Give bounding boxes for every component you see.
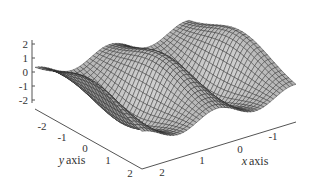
z-tick: 1 bbox=[23, 52, 29, 64]
y-tick-labels: -2 -1 0 1 2 yaxis bbox=[37, 120, 132, 179]
y-tick: -1 bbox=[57, 131, 66, 143]
z-tick: -1 bbox=[19, 80, 28, 92]
z-tick: 2 bbox=[23, 38, 29, 50]
surface-mesh bbox=[35, 20, 296, 135]
y-tick: -2 bbox=[37, 120, 46, 132]
x-tick: -1 bbox=[268, 130, 277, 142]
x-tick: 2 bbox=[159, 166, 165, 178]
x-tick-labels: -1 0 1 2 xaxis bbox=[159, 130, 277, 178]
y-tick: 2 bbox=[127, 167, 133, 179]
y-tick: 1 bbox=[105, 154, 111, 166]
z-tick-labels: 2 1 0 -1 -2 bbox=[19, 38, 29, 106]
surface-plot: 2 1 0 -1 -2 -2 -1 0 1 2 yaxis -1 0 1 2 x… bbox=[0, 0, 315, 188]
z-tick: -2 bbox=[19, 94, 28, 106]
z-tick: 0 bbox=[23, 66, 29, 78]
y-axis-label: yaxis bbox=[58, 153, 86, 167]
x-axis-label: xaxis bbox=[241, 154, 269, 168]
x-tick: 1 bbox=[199, 154, 205, 166]
